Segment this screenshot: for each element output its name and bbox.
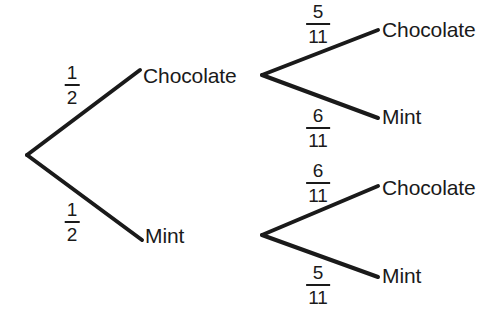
node-mint-level1: Mint — [145, 225, 184, 246]
fraction-numerator: 5 — [306, 263, 330, 282]
probability-tree-diagram: 1 2 1 2 Chocolate Mint 5 11 6 11 6 11 5 … — [0, 0, 490, 321]
node-chocolate-level1: Chocolate — [143, 65, 237, 86]
fraction-bar — [306, 23, 330, 25]
fraction-numerator: 6 — [306, 161, 330, 180]
probability-chocolate-to-chocolate: 5 11 — [306, 2, 330, 46]
fraction-bar — [306, 127, 330, 129]
probability-root-to-mint: 1 2 — [65, 200, 80, 244]
fraction-bar — [65, 221, 80, 223]
fraction-numerator: 1 — [65, 200, 80, 219]
fraction-bar — [306, 284, 330, 286]
fraction-denominator: 2 — [65, 225, 80, 244]
fraction-numerator: 1 — [65, 63, 80, 82]
fraction-bar — [65, 84, 80, 86]
fraction-numerator: 6 — [306, 106, 330, 125]
node-chocolate-chocolate: Chocolate — [382, 19, 476, 40]
fraction-denominator: 11 — [306, 288, 330, 307]
fraction-denominator: 11 — [306, 131, 330, 150]
probability-mint-to-chocolate: 6 11 — [306, 161, 330, 205]
fraction-denominator: 2 — [65, 88, 80, 107]
fraction-denominator: 11 — [306, 27, 330, 46]
fraction-numerator: 5 — [306, 2, 330, 21]
branch-root-to-chocolate — [27, 70, 140, 155]
probability-root-to-chocolate: 1 2 — [65, 63, 80, 107]
node-mint-mint: Mint — [382, 265, 421, 286]
probability-chocolate-to-mint: 6 11 — [306, 106, 330, 150]
branch-root-to-mint — [27, 155, 142, 240]
probability-mint-to-mint: 5 11 — [306, 263, 330, 307]
node-mint-chocolate: Chocolate — [382, 177, 476, 198]
fraction-denominator: 11 — [306, 186, 330, 205]
fraction-bar — [306, 182, 330, 184]
node-chocolate-mint: Mint — [382, 106, 421, 127]
